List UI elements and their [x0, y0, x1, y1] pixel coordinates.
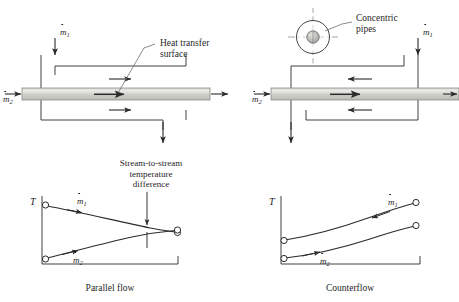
- curve-label-mdot1-parallel: m1: [77, 197, 87, 207]
- concentric-pipes-line1: Concentric: [356, 13, 398, 24]
- endpoint-marker-mdot2-right-counter: [413, 222, 419, 228]
- endpoint-marker-mdot2-inlet-parallel: [42, 256, 48, 262]
- curve-mdot1-counter: [285, 203, 415, 240]
- stream-to-stream-difference-note: Stream-to-stream temperature difference: [97, 158, 205, 190]
- heat-exchanger-figure: m1 m2 Heat transfer surface Concentric p…: [0, 0, 459, 302]
- parallel-flow-chart: [42, 192, 181, 264]
- stream-note-line2: temperature: [97, 169, 205, 180]
- counterflow-chart: [281, 196, 420, 264]
- heat-transfer-surface-leader: [118, 44, 155, 93]
- heat-transfer-surface-line1: Heat transfer: [160, 38, 209, 49]
- curve-mdot2-counter: [285, 226, 415, 258]
- concentric-pipes-callout: Concentric pipes: [356, 13, 398, 35]
- concentric-pipes-crosssection: [288, 8, 352, 66]
- endpoint-marker-mdot2-left-counter: [281, 255, 287, 261]
- mdot2-label-parallel: m2: [3, 95, 13, 105]
- heat-transfer-surface-callout: Heat transfer surface: [160, 38, 209, 60]
- concentric-pipes-leader: [325, 22, 352, 31]
- endpoint-marker-mdot2-outlet-parallel: [174, 227, 180, 233]
- heat-transfer-surface-band-counter: [271, 88, 459, 100]
- figure-svg: [0, 0, 459, 302]
- caption-parallel-flow: Parallel flow: [0, 283, 220, 293]
- flow-arrow-mdot1-counter: [372, 212, 390, 219]
- axis-label-T-counter: T: [269, 196, 275, 207]
- caption-counterflow: Counterflow: [240, 283, 459, 293]
- stream-note-line1: Stream-to-stream: [97, 158, 205, 169]
- endpoint-marker-mdot1-right-counter: [413, 199, 419, 205]
- curve-label-mdot2-counter: m2: [320, 257, 330, 267]
- axis-label-T-parallel: T: [30, 196, 36, 207]
- mdot1-label-parallel: m1: [60, 28, 70, 38]
- curve-mdot1-parallel: [47, 206, 175, 232]
- flow-arrow-mdot2-counter: [302, 252, 320, 256]
- mdot2-label-counter: m2: [252, 95, 262, 105]
- curve-label-mdot2-parallel: m2: [73, 256, 83, 266]
- stream-note-line3: difference: [97, 179, 205, 190]
- concentric-pipes-line2: pipes: [356, 24, 398, 35]
- curve-label-mdot1-counter: m1: [388, 198, 398, 208]
- heat-transfer-surface-line2: surface: [160, 49, 209, 60]
- endpoint-marker-mdot1-left-counter: [281, 237, 287, 243]
- flow-arrow-mdot1-parallel: [67, 210, 82, 213]
- mdot1-label-counter: m1: [423, 28, 433, 38]
- endpoint-marker-mdot1-inlet-parallel: [42, 202, 48, 208]
